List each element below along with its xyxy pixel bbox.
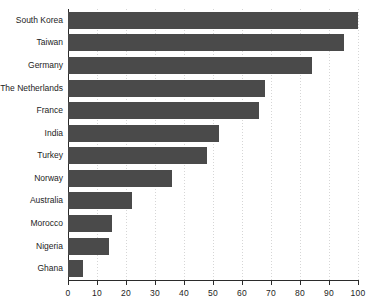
category-label: Ghana: [0, 263, 63, 273]
x-tick-label: 100: [351, 288, 366, 298]
bar-row: [68, 57, 358, 74]
bar: [68, 192, 132, 209]
bar-row: [68, 192, 358, 209]
x-tick-label: 50: [208, 288, 218, 298]
bar-row: [68, 215, 358, 232]
bar: [68, 215, 112, 232]
category-label: The Netherlands: [0, 83, 63, 93]
bar: [68, 34, 344, 51]
category-label: Morocco: [0, 218, 63, 228]
x-axis-line: [68, 280, 359, 281]
bar-row: [68, 170, 358, 187]
bar-row: [68, 34, 358, 51]
x-tick-mark: [329, 281, 330, 285]
bar-row: [68, 260, 358, 277]
x-tick-mark: [68, 281, 69, 285]
x-tick-label: 70: [266, 288, 276, 298]
bar-row: [68, 238, 358, 255]
x-tick-label: 80: [295, 288, 305, 298]
x-tick-label: 60: [237, 288, 247, 298]
x-tick-label: 20: [121, 288, 131, 298]
x-tick-mark: [271, 281, 272, 285]
category-label: Australia: [0, 195, 63, 205]
category-label: India: [0, 128, 63, 138]
bar: [68, 170, 172, 187]
x-tick-mark: [242, 281, 243, 285]
bar: [68, 57, 312, 74]
bar-row: [68, 80, 358, 97]
x-tick-mark: [300, 281, 301, 285]
x-tick-label: 40: [179, 288, 189, 298]
bar: [68, 12, 358, 29]
bar-chart: 0102030405060708090100 South KoreaTaiwan…: [0, 0, 368, 308]
category-label: Germany: [0, 60, 63, 70]
category-label: France: [0, 105, 63, 115]
x-tick-label: 0: [66, 288, 71, 298]
bar-row: [68, 12, 358, 29]
bar-row: [68, 102, 358, 119]
category-label: Norway: [0, 173, 63, 183]
bar: [68, 147, 207, 164]
x-tick-mark: [97, 281, 98, 285]
category-label: South Korea: [0, 15, 63, 25]
bar-row: [68, 147, 358, 164]
x-tick-mark: [126, 281, 127, 285]
gridline: [358, 9, 359, 280]
category-label: Nigeria: [0, 241, 63, 251]
x-tick-mark: [358, 281, 359, 285]
bar: [68, 102, 259, 119]
bar: [68, 238, 109, 255]
x-tick-mark: [184, 281, 185, 285]
category-label: Turkey: [0, 150, 63, 160]
bar: [68, 125, 219, 142]
x-tick-mark: [155, 281, 156, 285]
bar: [68, 80, 265, 97]
x-tick-label: 30: [150, 288, 160, 298]
bar: [68, 260, 83, 277]
bar-row: [68, 125, 358, 142]
x-tick-label: 10: [92, 288, 102, 298]
x-tick-mark: [213, 281, 214, 285]
x-tick-label: 90: [324, 288, 334, 298]
category-label: Taiwan: [0, 37, 63, 47]
